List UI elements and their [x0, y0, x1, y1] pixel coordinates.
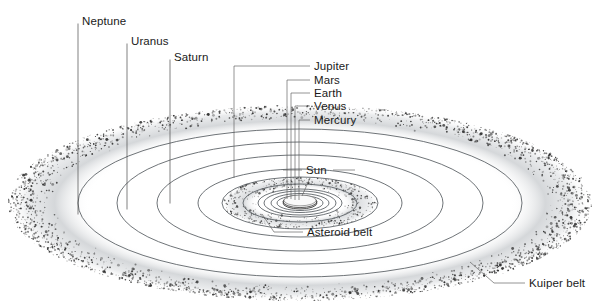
label-kuiper-belt: Kuiper belt	[529, 277, 586, 289]
solar-system-diagram: Neptune Uranus Saturn Jupiter Mars Earth…	[0, 0, 603, 306]
sun-body	[283, 195, 317, 209]
label-mars: Mars	[314, 74, 340, 86]
label-venus: Venus	[314, 100, 347, 112]
label-neptune: Neptune	[82, 15, 126, 27]
label-mercury: Mercury	[314, 114, 356, 126]
diagram-canvas: Neptune Uranus Saturn Jupiter Mars Earth…	[0, 0, 603, 306]
label-uranus: Uranus	[131, 35, 169, 47]
label-jupiter: Jupiter	[314, 60, 349, 72]
label-saturn: Saturn	[174, 51, 208, 63]
label-sun: Sun	[306, 164, 327, 176]
label-earth: Earth	[314, 87, 342, 99]
label-asteroid-belt: Asteroid belt	[307, 226, 373, 238]
